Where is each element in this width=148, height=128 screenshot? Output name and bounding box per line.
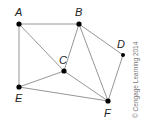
node-label-c: C: [59, 54, 67, 66]
edge-e-f: [19, 87, 108, 101]
node-label-b: B: [75, 6, 82, 18]
node-d: [121, 53, 125, 57]
node-f: [105, 98, 110, 103]
node-e: [16, 84, 21, 89]
node-label-f: F: [104, 107, 112, 119]
graph-edges: [19, 24, 123, 101]
graph-diagram: ABCDEF © Cengage Learning 2014: [0, 0, 148, 128]
edge-d-f: [108, 55, 123, 101]
edge-a-c: [19, 24, 64, 71]
edge-b-f: [79, 24, 108, 101]
graph-nodes: [16, 21, 125, 103]
edge-c-f: [64, 71, 108, 101]
node-b: [76, 21, 81, 26]
edge-c-e: [19, 71, 64, 87]
node-label-e: E: [15, 92, 23, 104]
copyright-notice: © Cengage Learning 2014: [132, 41, 140, 118]
node-label-d: D: [117, 38, 125, 50]
node-c: [61, 68, 66, 73]
node-a: [16, 21, 21, 26]
node-label-a: A: [14, 6, 22, 18]
